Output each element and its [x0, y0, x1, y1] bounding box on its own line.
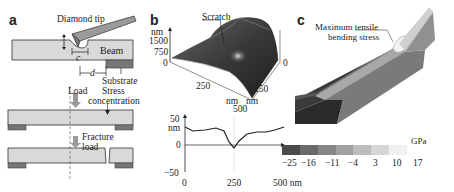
label-max-tensile: Maximum tensile	[315, 22, 378, 32]
colorbar-tick-neg16: −16	[301, 158, 316, 168]
label-substrate: Substrate	[102, 76, 137, 86]
colorbar-seg-3	[336, 145, 354, 155]
label-fracture: Fracture	[82, 132, 114, 142]
profile-x-tick-250: 250	[227, 178, 241, 188]
colorbar	[282, 145, 407, 155]
colorbar-seg-0	[282, 145, 300, 155]
z-tick-0: 0	[163, 58, 168, 68]
label-c: c	[76, 53, 80, 63]
colorbar-tick-neg4: −4	[348, 158, 358, 168]
colorbar-seg-4	[353, 145, 371, 155]
profile-y-tick-neg50: −50	[164, 168, 179, 178]
panel-b: b	[150, 0, 295, 192]
label-diamond-tip: Diamond tip	[57, 14, 105, 24]
colorbar-tick-neg11: −11	[325, 158, 340, 168]
profile-line-chart	[183, 114, 285, 172]
x-tick-250: 250	[196, 81, 210, 91]
y-tick-250: 250	[254, 84, 268, 94]
fracture-load-arrow-icon	[70, 136, 81, 148]
beam-middle	[8, 104, 133, 130]
z-tick-1500: 1500	[149, 36, 168, 46]
label-d: d	[90, 68, 95, 78]
label-scratch: Scratch	[202, 12, 231, 22]
profile-y-tick-0: 0	[176, 140, 181, 150]
label-load: Load	[68, 86, 88, 96]
colorbar-tick-17: 17	[413, 158, 423, 168]
beam-bottom	[8, 148, 133, 168]
colorbar-seg-2	[318, 145, 336, 155]
label-stress: Stress	[102, 86, 125, 96]
label-bending-stress: bending stress	[328, 32, 379, 42]
label-concentration: concentration	[88, 96, 140, 106]
colorbar-tick-neg25: −25	[282, 158, 297, 168]
colorbar-tick-10: 10	[392, 158, 402, 168]
y-unit: nm	[246, 96, 258, 106]
panel-a: a	[0, 0, 150, 192]
colorbar-seg-5	[371, 145, 389, 155]
colorbar-seg-1	[300, 145, 318, 155]
profile-x-tick-0: 0	[182, 178, 187, 188]
profile-y-unit: nm	[168, 123, 180, 133]
colorbar-seg-6	[389, 145, 407, 155]
colorbar-unit: GPa	[411, 136, 427, 146]
colorbar-tick-3: 3	[373, 158, 378, 168]
corner-tick-500: 500	[233, 104, 247, 114]
right-zero-tick: 0	[283, 58, 288, 68]
z-tick-750: 750	[154, 47, 168, 57]
afm-surface-and-profile	[150, 0, 295, 192]
panel-c: c Maximum tensile bending stress GPa −25…	[295, 0, 454, 192]
label-fracture-load: load	[82, 142, 98, 152]
label-beam: Beam	[100, 46, 123, 56]
